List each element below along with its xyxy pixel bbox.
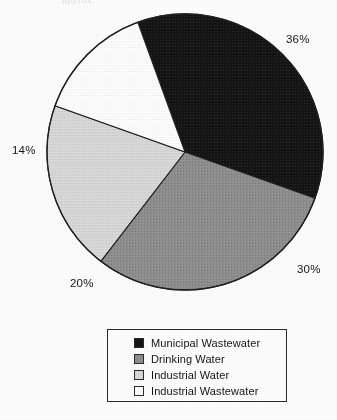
chart-figure: approx. [0, 0, 337, 420]
legend-item-label: Drinking Water [151, 353, 225, 365]
legend-item-label: Industrial Water [151, 369, 229, 381]
pie-chart: 36% 30% 20% 14% [0, 0, 337, 310]
legend-item-label: Municipal Wastewater [151, 337, 260, 349]
legend-item-municipal-wastewater: Municipal Wastewater [108, 335, 286, 351]
pie-chart-svg [0, 0, 337, 310]
legend-item-industrial-wastewater: Industrial Wastewater [108, 383, 286, 399]
pie-data-label-drinking-water: 30% [297, 263, 321, 275]
pie-data-label-industrial-water: 20% [70, 277, 94, 289]
legend-swatch-icon [134, 386, 144, 396]
legend-item-industrial-water: Industrial Water [108, 367, 286, 383]
chart-legend: Municipal Wastewater Drinking Water Indu… [107, 329, 287, 402]
legend-item-label: Industrial Wastewater [151, 385, 258, 397]
legend-swatch-icon [134, 354, 144, 364]
legend-swatch-icon [134, 370, 144, 380]
legend-item-drinking-water: Drinking Water [108, 351, 286, 367]
pie-data-label-municipal-wastewater: 36% [286, 33, 310, 45]
pie-data-label-industrial-wastewater: 14% [12, 144, 36, 156]
legend-swatch-icon [134, 338, 144, 348]
